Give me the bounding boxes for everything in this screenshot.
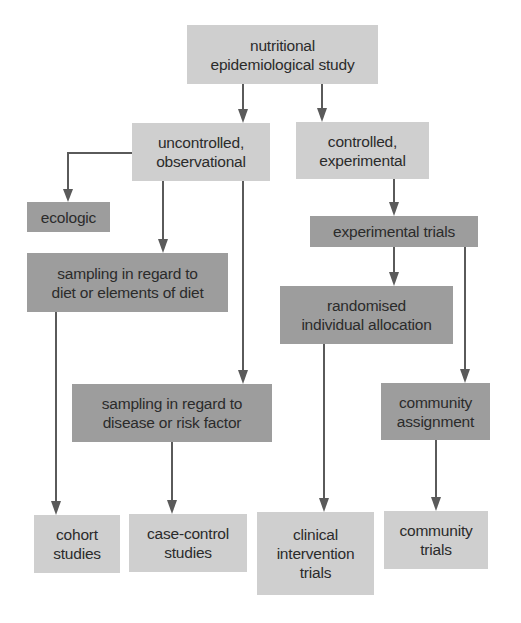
node-community-trials-label: community trials bbox=[399, 521, 472, 559]
node-root: nutritional epidemiological study bbox=[187, 25, 378, 84]
node-ecologic: ecologic bbox=[27, 202, 110, 232]
node-controlled-experimental: controlled, experimental bbox=[296, 122, 429, 179]
node-root-label: nutritional epidemiological study bbox=[211, 36, 355, 74]
node-controlled-label: controlled, experimental bbox=[319, 132, 405, 170]
node-case-control-studies: case-control studies bbox=[129, 514, 247, 572]
arrow-uncontrolled-ecologic bbox=[68, 153, 132, 190]
node-ecologic-label: ecologic bbox=[41, 208, 96, 227]
node-clinical-label: clinical intervention trials bbox=[277, 525, 355, 582]
node-uncontrolled-observational: uncontrolled, observational bbox=[132, 123, 270, 181]
node-randomised-label: randomised individual allocation bbox=[301, 296, 431, 334]
node-uncontrolled-label: uncontrolled, observational bbox=[156, 133, 246, 171]
node-sampling-diet-label: sampling in regard to diet or elements o… bbox=[51, 264, 203, 302]
node-community-assignment-label: community assignment bbox=[397, 393, 474, 431]
node-sampling-diet: sampling in regard to diet or elements o… bbox=[27, 253, 228, 312]
node-randomised-allocation: randomised individual allocation bbox=[280, 286, 453, 344]
node-clinical-intervention-trials: clinical intervention trials bbox=[257, 512, 374, 595]
node-experimental-trials: experimental trials bbox=[310, 216, 478, 247]
node-cohort-label: cohort studies bbox=[53, 525, 101, 563]
node-experimental-trials-label: experimental trials bbox=[333, 222, 455, 241]
node-sampling-disease-label: sampling in regard to disease or risk fa… bbox=[102, 394, 243, 432]
node-community-assignment: community assignment bbox=[381, 383, 490, 440]
node-cohort-studies: cohort studies bbox=[34, 515, 120, 573]
node-sampling-disease: sampling in regard to disease or risk fa… bbox=[72, 384, 272, 442]
node-community-trials: community trials bbox=[384, 511, 488, 569]
node-case-control-label: case-control studies bbox=[147, 524, 229, 562]
